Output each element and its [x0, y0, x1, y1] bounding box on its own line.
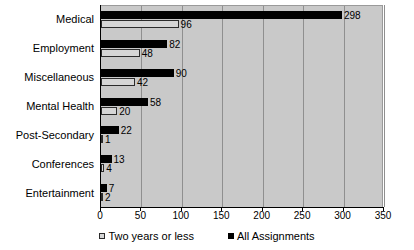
- bar-value-label: 1: [105, 135, 111, 145]
- bar-two: [101, 20, 179, 28]
- x-axis-tick-label: 250: [282, 210, 322, 221]
- x-axis-tick-label: 200: [242, 210, 282, 221]
- category-axis-labels: MedicalEmploymentMiscellaneousMental Hea…: [0, 5, 94, 207]
- bar-two: [101, 49, 140, 57]
- bar-value-label: 82: [169, 40, 180, 50]
- category-label: Medical: [56, 13, 94, 25]
- x-axis-tick-mark: [343, 207, 344, 211]
- gridline: [141, 5, 142, 207]
- bar-all: [101, 155, 112, 163]
- gridline: [263, 5, 264, 207]
- legend-label: All Assignments: [237, 230, 315, 242]
- bar-value-label: 2: [105, 193, 111, 203]
- legend-swatch-icon: [99, 233, 105, 239]
- x-axis-line: [100, 207, 384, 208]
- bar-value-label: 96: [181, 20, 192, 30]
- x-axis-tick-mark: [100, 207, 101, 211]
- legend-item[interactable]: Two years or less: [99, 230, 194, 242]
- legend-item[interactable]: All Assignments: [228, 230, 315, 242]
- x-axis-tick-label: 100: [161, 210, 201, 221]
- bar-two: [101, 107, 117, 115]
- category-label: Mental Health: [26, 100, 94, 112]
- category-label: Conferences: [32, 158, 94, 170]
- gridline: [303, 5, 304, 207]
- category-label: Entertainment: [26, 187, 94, 199]
- bar-value-label: 90: [176, 69, 187, 79]
- x-axis-tick-label: 350: [363, 210, 403, 221]
- y-axis-line: [100, 5, 101, 208]
- plot-area: [100, 5, 383, 207]
- bar-value-label: 48: [142, 49, 153, 59]
- x-axis-tick-mark: [302, 207, 303, 211]
- category-label: Miscellaneous: [24, 71, 94, 83]
- bar-value-label: 22: [121, 126, 132, 136]
- bar-all: [101, 184, 107, 192]
- x-axis-tick-mark: [383, 207, 384, 211]
- gridline: [182, 5, 183, 207]
- bar-two: [101, 78, 135, 86]
- x-axis-tick-label: 50: [120, 210, 160, 221]
- category-label: Post-Secondary: [16, 129, 94, 141]
- bar-all: [101, 40, 167, 48]
- bar-all: [101, 69, 174, 77]
- bar-value-label: 20: [119, 107, 130, 117]
- bar-all: [101, 11, 342, 19]
- bar-two: [101, 164, 104, 172]
- x-axis-tick-mark: [221, 207, 222, 211]
- legend-swatch-icon: [228, 233, 234, 239]
- legend-label: Two years or less: [108, 230, 194, 242]
- x-axis-tick-mark: [181, 207, 182, 211]
- bar-two: [101, 135, 103, 143]
- category-label: Employment: [33, 42, 94, 54]
- x-axis-tick-label: 0: [80, 210, 120, 221]
- bar-all: [101, 98, 148, 106]
- bar-two: [101, 193, 103, 201]
- bar-value-label: 4: [106, 164, 112, 174]
- x-axis-tick-mark: [262, 207, 263, 211]
- bar-chart: MedicalEmploymentMiscellaneousMental Hea…: [0, 0, 414, 250]
- x-axis-tick-label: 150: [201, 210, 241, 221]
- gridline: [384, 5, 385, 207]
- bar-all: [101, 126, 119, 134]
- gridline: [344, 5, 345, 207]
- x-axis-tick-mark: [140, 207, 141, 211]
- chart-legend: Two years or lessAll Assignments: [0, 228, 414, 244]
- bar-value-label: 13: [114, 155, 125, 165]
- bar-value-label: 58: [150, 98, 161, 108]
- bar-value-label: 42: [137, 78, 148, 88]
- bar-value-label: 298: [344, 11, 361, 21]
- gridline: [222, 5, 223, 207]
- x-axis-tick-label: 300: [323, 210, 363, 221]
